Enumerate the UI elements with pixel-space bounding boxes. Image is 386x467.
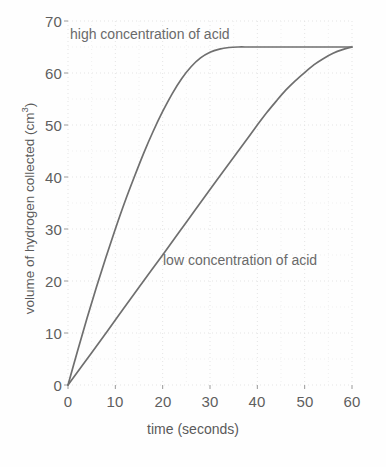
y-axis-title-superscript: 3 — [19, 107, 30, 112]
annotation-high-concentration: high concentration of acid — [70, 26, 230, 42]
y-tick-label: 70 — [28, 14, 62, 29]
x-tick-label: 10 — [95, 394, 135, 409]
annotation-low-concentration: low concentration of acid — [163, 252, 317, 268]
line-chart: 70 60 50 40 30 20 10 0 0 10 20 30 40 50 … — [0, 0, 386, 467]
y-axis-title-text: volume of hydrogen collected (cm — [22, 112, 37, 314]
y-axis-title-tail: ) — [22, 103, 37, 108]
x-tick-label: 0 — [48, 394, 88, 409]
x-tick-label: 20 — [143, 394, 183, 409]
x-tick-label: 50 — [285, 394, 325, 409]
y-tick-label: 0 — [28, 378, 62, 393]
x-tick-label: 40 — [237, 394, 277, 409]
series-line — [68, 47, 352, 385]
y-tick-label: 60 — [28, 66, 62, 81]
plot-area — [68, 21, 352, 385]
y-axis-title: volume of hydrogen collected (cm3) — [22, 84, 37, 334]
series-line — [68, 47, 352, 385]
x-tick-label: 60 — [332, 394, 372, 409]
x-axis-title: time (seconds) — [0, 421, 386, 437]
x-axis-tick-labels: 0 10 20 30 40 50 60 — [0, 394, 386, 416]
x-tick-label: 30 — [190, 394, 230, 409]
series-layer — [68, 21, 352, 385]
